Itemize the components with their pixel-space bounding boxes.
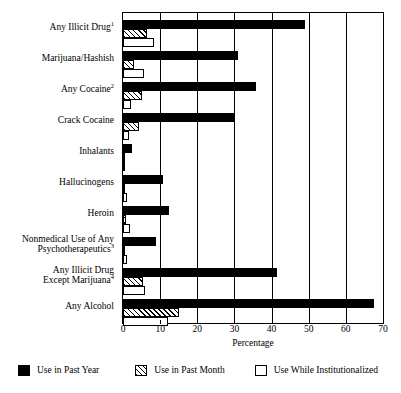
bar-group xyxy=(123,13,383,44)
legend-label: Use in Past Year xyxy=(37,365,99,375)
bar-year xyxy=(123,268,277,277)
legend-label: Use While Institutionalized xyxy=(274,365,378,375)
footnote-marker: 1 xyxy=(111,19,114,26)
bar-month xyxy=(123,122,139,131)
bar-group xyxy=(123,168,383,199)
bar-month xyxy=(123,246,125,255)
x-tick-mark xyxy=(272,320,273,324)
category-label: Any Illicit Drug1 xyxy=(0,22,114,33)
bar-month xyxy=(123,29,147,38)
x-tick-mark xyxy=(383,320,384,324)
x-tick-label: 30 xyxy=(230,324,240,334)
x-tick-label: 50 xyxy=(304,324,314,334)
bar-month xyxy=(123,215,126,224)
legend-item: Use in Past Month xyxy=(135,365,224,376)
bar-group xyxy=(123,106,383,137)
bar-month xyxy=(123,60,134,69)
bar-chart: Any Illicit Drug1Marijuana/HashishAny Co… xyxy=(0,0,401,393)
plot-area xyxy=(122,12,384,324)
x-axis-ticks: 010203040506070 xyxy=(122,324,384,338)
x-tick-mark xyxy=(346,320,347,324)
footnote-marker: 3 xyxy=(111,242,114,249)
bar-year xyxy=(123,299,374,308)
hatched-swatch xyxy=(135,365,147,376)
footnote-marker: 4 xyxy=(111,273,114,280)
solid-black-swatch xyxy=(18,365,30,376)
chart-legend: Use in Past YearUse in Past MonthUse Whi… xyxy=(18,362,388,378)
x-tick-label: 60 xyxy=(341,324,351,334)
bar-group xyxy=(123,261,383,292)
x-tick-mark xyxy=(309,320,310,324)
x-tick-label: 10 xyxy=(155,324,165,334)
legend-label: Use in Past Month xyxy=(154,365,224,375)
bar-year xyxy=(123,113,234,122)
x-tick-mark xyxy=(197,320,198,324)
category-label: Any Cocaine2 xyxy=(0,84,114,95)
x-axis-title: Percentage xyxy=(122,338,384,348)
x-tick-label: 40 xyxy=(267,324,277,334)
bar-group xyxy=(123,292,383,323)
bar-group xyxy=(123,230,383,261)
legend-item: Use While Institutionalized xyxy=(255,365,378,376)
footnote-marker: 2 xyxy=(111,81,114,88)
bar-month xyxy=(123,91,142,100)
category-label: Inhalants xyxy=(0,146,114,157)
bar-month xyxy=(123,184,125,193)
x-tick-label: 70 xyxy=(378,324,388,334)
x-tick-label: 20 xyxy=(193,324,203,334)
x-tick-mark xyxy=(234,320,235,324)
bar-group xyxy=(123,137,383,168)
open-white-swatch xyxy=(255,365,267,376)
bar-group xyxy=(123,75,383,106)
category-label: Marijuana/Hashish xyxy=(0,53,114,64)
category-axis-labels: Any Illicit Drug1Marijuana/HashishAny Co… xyxy=(0,12,118,324)
x-tick-mark xyxy=(160,320,161,324)
category-label: Any Alcohol xyxy=(0,301,114,312)
bar-year xyxy=(123,206,169,215)
bar-year xyxy=(123,51,238,60)
bar-year xyxy=(123,144,132,153)
bar-year xyxy=(123,175,163,184)
bar-month xyxy=(123,308,179,317)
bar-year xyxy=(123,20,305,29)
category-label: Crack Cocaine xyxy=(0,115,114,126)
category-label: Hallucinogens xyxy=(0,177,114,188)
bar-month xyxy=(123,277,143,286)
category-label: Any Illicit DrugExcept Marijuana4 xyxy=(0,265,114,286)
bar-group xyxy=(123,44,383,75)
x-tick-mark xyxy=(123,320,124,324)
bar-year xyxy=(123,82,256,91)
category-label: Nonmedical Use of AnyPsychotherapeutics3 xyxy=(0,234,114,255)
bar-year xyxy=(123,237,156,246)
legend-item: Use in Past Year xyxy=(18,365,99,376)
category-label: Heroin xyxy=(0,208,114,219)
bar-group xyxy=(123,199,383,230)
bar-month xyxy=(123,153,125,162)
x-tick-label: 0 xyxy=(121,324,126,334)
